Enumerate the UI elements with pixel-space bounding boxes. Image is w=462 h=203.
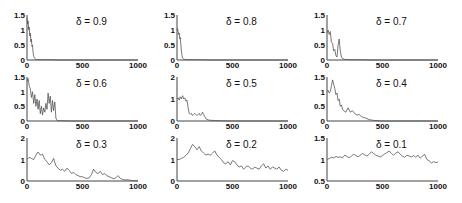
- y-tick-label: 1.5: [164, 11, 176, 20]
- x-tick-label: 1000: [429, 182, 447, 191]
- panel-title: δ = 0.9: [76, 16, 107, 27]
- x-tick-label: 1000: [129, 182, 147, 191]
- x-tick-label: 500: [376, 61, 390, 70]
- panel-title: δ = 0.6: [76, 78, 107, 89]
- data-line: [27, 152, 138, 181]
- x-tick-label: 500: [76, 61, 90, 70]
- x-tick-label: 0: [175, 182, 180, 191]
- y-tick-label: 1.5: [314, 73, 326, 82]
- x-tick-label: 500: [76, 122, 90, 131]
- x-tick-label: 1000: [279, 182, 297, 191]
- x-tick-label: 0: [25, 182, 30, 191]
- y-tick-label: 1: [21, 26, 26, 35]
- panel-title: δ = 0.4: [376, 78, 407, 89]
- y-tick-label: 1: [321, 156, 326, 165]
- y-tick-label: 1: [21, 88, 26, 97]
- y-tick-label: 1.5: [14, 11, 26, 20]
- x-tick-label: 1000: [429, 61, 447, 70]
- x-tick-label: 500: [376, 182, 390, 191]
- x-tick-label: 0: [25, 61, 30, 70]
- y-tick-label: 1.5: [314, 134, 326, 143]
- x-tick-label: 1000: [279, 122, 297, 131]
- data-line: [177, 96, 288, 121]
- chart-panel: 01205001000δ = 0.3: [21, 134, 148, 191]
- chart-panel: 00.511.505001000δ = 0.9: [14, 11, 148, 70]
- x-tick-label: 1000: [129, 61, 147, 70]
- data-line: [327, 151, 438, 163]
- x-tick-label: 0: [175, 61, 180, 70]
- panel-title: δ = 0.7: [376, 16, 407, 27]
- y-tick-label: 1: [171, 95, 176, 104]
- chart-panel: 00.511.505001000δ = 0.6: [14, 73, 148, 131]
- panel-title: δ = 0.1: [376, 139, 407, 150]
- x-tick-label: 0: [325, 182, 330, 191]
- y-tick-label: 1: [171, 156, 176, 165]
- x-tick-label: 0: [325, 61, 330, 70]
- chart-panel: 0.511.505001000δ = 0.1: [314, 134, 448, 191]
- chart-panel: 00.511.505001000δ = 0.8: [164, 11, 298, 70]
- chart-panel: 00.511.505001000δ = 0.7: [314, 11, 448, 70]
- x-tick-label: 500: [76, 182, 90, 191]
- x-tick-label: 500: [226, 182, 240, 191]
- panel-title: δ = 0.3: [76, 139, 107, 150]
- x-tick-label: 1000: [429, 122, 447, 131]
- x-tick-label: 0: [25, 122, 30, 131]
- y-tick-label: 0.5: [314, 102, 326, 111]
- x-tick-label: 500: [226, 61, 240, 70]
- panel-title: δ = 0.8: [226, 16, 257, 27]
- x-tick-label: 500: [376, 122, 390, 131]
- chart-panel: 01205001000δ = 0.2: [171, 134, 298, 191]
- x-tick-label: 1000: [279, 61, 297, 70]
- y-tick-label: 2: [171, 134, 176, 143]
- y-tick-label: 0.5: [14, 41, 26, 50]
- y-tick-label: 1: [171, 26, 176, 35]
- chart-grid: 00.511.505001000δ = 0.900.511.505001000δ…: [0, 0, 462, 203]
- y-tick-label: 2: [171, 73, 176, 82]
- y-tick-label: 1.5: [14, 73, 26, 82]
- data-line: [327, 30, 438, 60]
- y-tick-label: 1: [21, 156, 26, 165]
- y-tick-label: 1: [321, 88, 326, 97]
- y-tick-label: 2: [21, 134, 26, 143]
- panel-title: δ = 0.2: [226, 139, 257, 150]
- chart-panel: 00.511.505001000δ = 0.4: [314, 73, 448, 131]
- y-tick-label: 1: [321, 26, 326, 35]
- y-tick-label: 1.5: [314, 11, 326, 20]
- x-tick-label: 0: [175, 122, 180, 131]
- y-tick-label: 0.5: [314, 41, 326, 50]
- y-tick-label: 0.5: [164, 41, 176, 50]
- panel-title: δ = 0.5: [226, 78, 257, 89]
- x-tick-label: 0: [325, 122, 330, 131]
- x-tick-label: 500: [226, 122, 240, 131]
- x-tick-label: 1000: [129, 122, 147, 131]
- chart-panel: 01205001000δ = 0.5: [171, 73, 298, 131]
- data-line: [177, 29, 288, 61]
- y-tick-label: 0.5: [14, 102, 26, 111]
